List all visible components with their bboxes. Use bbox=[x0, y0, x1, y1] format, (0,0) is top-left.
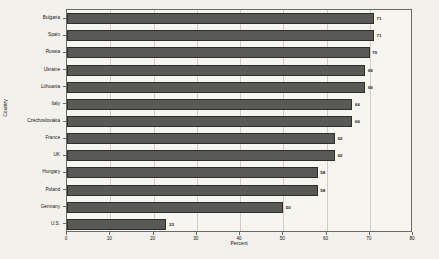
y-axis-category-label: Bulgaria bbox=[2, 14, 60, 21]
bar bbox=[67, 185, 318, 196]
bar-row: 71 bbox=[67, 13, 413, 24]
x-axis-tick bbox=[369, 232, 370, 235]
bar bbox=[67, 150, 335, 161]
bar-row: 62 bbox=[67, 133, 413, 144]
bar bbox=[67, 202, 283, 213]
y-axis-category-label: Spain bbox=[2, 31, 60, 38]
plot-area: 71717069696666626258585023 bbox=[66, 9, 412, 232]
bar-row: 66 bbox=[67, 116, 413, 127]
bar-value-label: 58 bbox=[320, 168, 325, 177]
bar-row: 71 bbox=[67, 30, 413, 41]
bar bbox=[67, 167, 318, 178]
bar-value-label: 50 bbox=[286, 203, 291, 212]
x-axis-tick bbox=[412, 232, 413, 235]
bar-row: 69 bbox=[67, 82, 413, 93]
bar-row: 69 bbox=[67, 65, 413, 76]
bar bbox=[67, 65, 365, 76]
bar-row: 58 bbox=[67, 185, 413, 196]
y-axis-category-label: Italy bbox=[2, 100, 60, 107]
x-axis-tick bbox=[66, 232, 67, 235]
y-axis-category-label: Czechoslovakia bbox=[2, 117, 60, 124]
bar bbox=[67, 47, 370, 58]
bar-value-label: 71 bbox=[377, 14, 382, 23]
bar-value-label: 58 bbox=[320, 186, 325, 195]
bar-row: 70 bbox=[67, 47, 413, 58]
bar-value-label: 62 bbox=[338, 134, 343, 143]
bar bbox=[67, 82, 365, 93]
y-axis-category-label: U.S. bbox=[2, 220, 60, 227]
y-axis-category-label: Hungary bbox=[2, 168, 60, 175]
y-axis-category-label: France bbox=[2, 134, 60, 141]
bar bbox=[67, 133, 335, 144]
bar-value-label: 69 bbox=[368, 83, 373, 92]
y-axis-category-label: UK bbox=[2, 151, 60, 158]
x-axis-title: Percent bbox=[66, 240, 412, 246]
y-axis-category-label: Lithuania bbox=[2, 83, 60, 90]
x-axis-tick bbox=[282, 232, 283, 235]
bar-value-label: 69 bbox=[368, 66, 373, 75]
bar bbox=[67, 30, 374, 41]
bar-chart-figure: Country 71717069696666626258585023 01020… bbox=[0, 0, 439, 259]
bar-row: 58 bbox=[67, 167, 413, 178]
bar-value-label: 70 bbox=[372, 48, 377, 57]
bar bbox=[67, 13, 374, 24]
bar-row: 50 bbox=[67, 202, 413, 213]
bar-value-label: 71 bbox=[377, 31, 382, 40]
bar-value-label: 62 bbox=[338, 151, 343, 160]
y-axis-category-label: Russia bbox=[2, 48, 60, 55]
bar bbox=[67, 99, 352, 110]
bar bbox=[67, 116, 352, 127]
x-axis-tick bbox=[239, 232, 240, 235]
bar-row: 62 bbox=[67, 150, 413, 161]
x-axis-tick bbox=[153, 232, 154, 235]
bar-value-label: 23 bbox=[169, 220, 174, 229]
bar-value-label: 66 bbox=[355, 100, 360, 109]
x-axis-tick bbox=[109, 232, 110, 235]
y-axis-category-label: Germany bbox=[2, 203, 60, 210]
y-axis-category-label: Poland bbox=[2, 186, 60, 193]
bar bbox=[67, 219, 166, 230]
x-axis-tick bbox=[326, 232, 327, 235]
y-axis-category-label: Ukraine bbox=[2, 66, 60, 73]
x-axis-tick bbox=[196, 232, 197, 235]
bar-value-label: 66 bbox=[355, 117, 360, 126]
bar-row: 23 bbox=[67, 219, 413, 230]
bar-row: 66 bbox=[67, 99, 413, 110]
